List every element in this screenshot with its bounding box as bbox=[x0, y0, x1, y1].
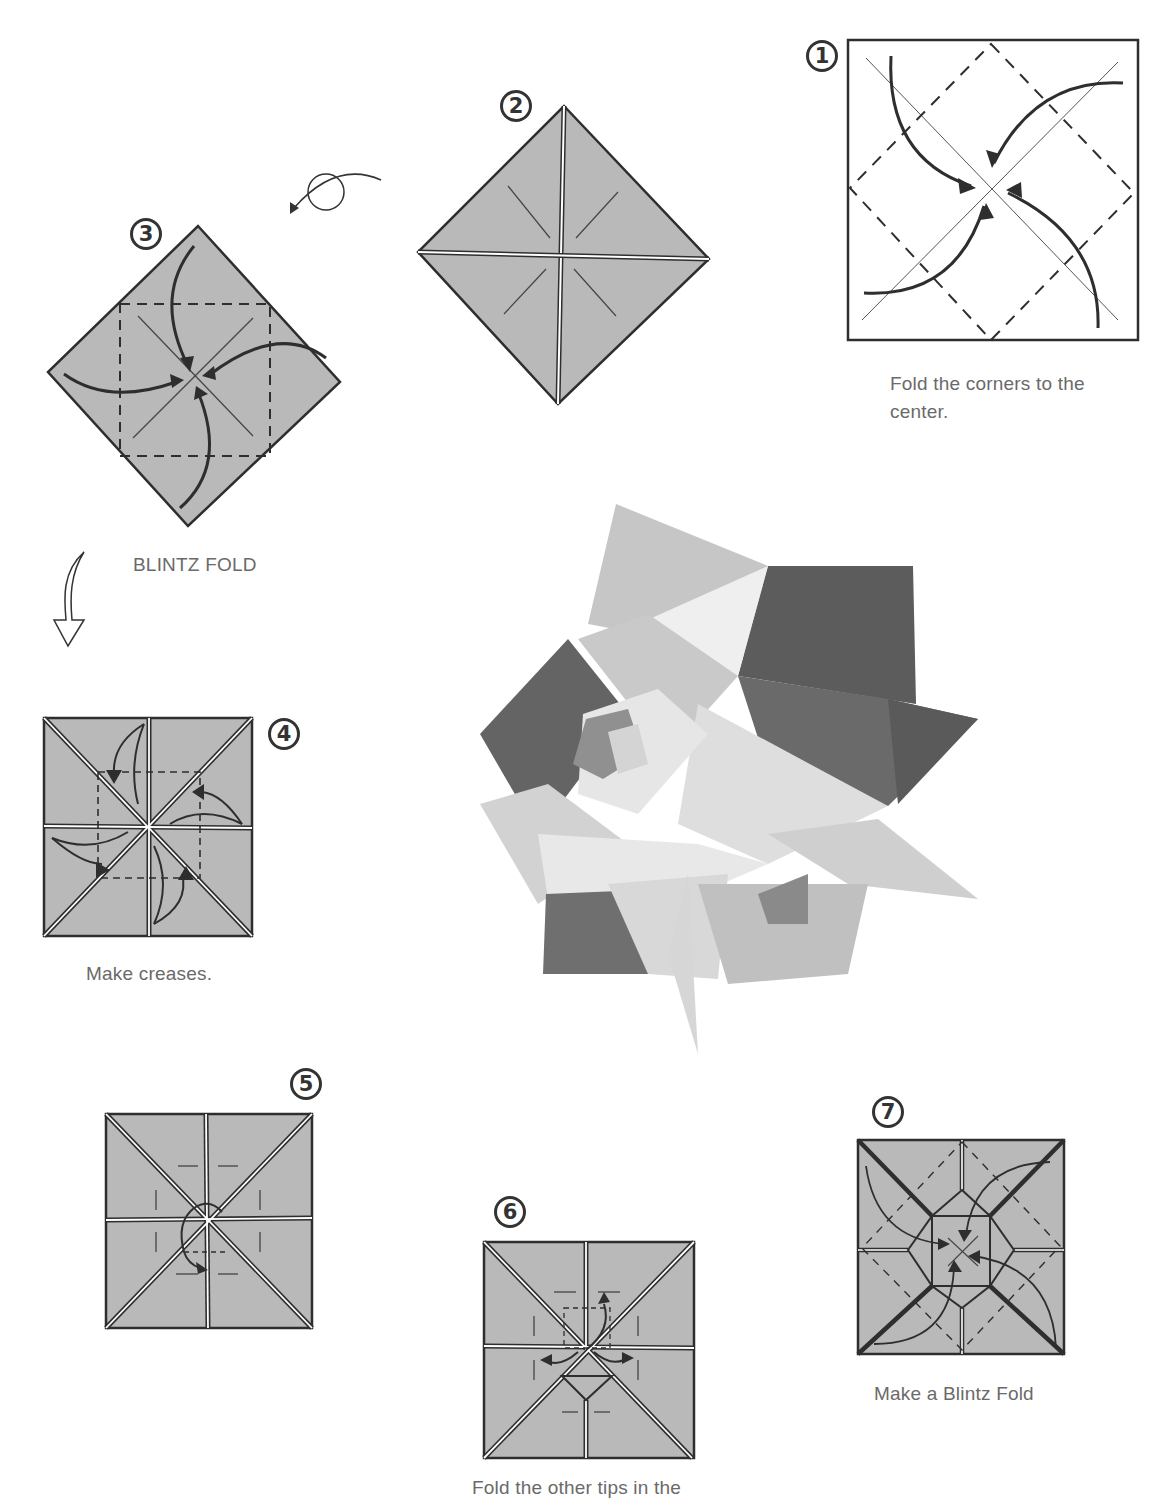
step-6-diagram bbox=[482, 1240, 696, 1462]
step-number-7: 7 bbox=[872, 1096, 904, 1128]
step-number-5-text: 5 bbox=[299, 1072, 314, 1096]
step-number-6: 6 bbox=[494, 1196, 526, 1228]
step-3-caption: BLINTZ FOLD bbox=[133, 551, 257, 579]
step-number-1: 1 bbox=[806, 40, 838, 72]
step-number-4: 4 bbox=[268, 718, 300, 750]
hollow-down-arrow-icon bbox=[42, 548, 92, 650]
step-number-5: 5 bbox=[290, 1068, 322, 1100]
step-3-diagram bbox=[48, 226, 344, 528]
turn-over-arrow-icon bbox=[286, 166, 386, 218]
step-1-diagram bbox=[846, 38, 1142, 344]
step-1-caption-line-1: Fold the corners to the bbox=[890, 370, 1085, 398]
step-1-caption: Fold the corners to the center. bbox=[890, 370, 1085, 426]
step-5-diagram bbox=[104, 1112, 316, 1332]
step-number-6-text: 6 bbox=[503, 1200, 518, 1224]
step-2-diagram bbox=[416, 104, 712, 406]
step-number-7-text: 7 bbox=[881, 1100, 896, 1124]
step-number-4-text: 4 bbox=[277, 722, 292, 746]
step-4-diagram bbox=[42, 714, 254, 940]
step-7-caption: Make a Blintz Fold bbox=[874, 1380, 1034, 1408]
step-number-1-text: 1 bbox=[815, 44, 830, 68]
step-1-caption-line-2: center. bbox=[890, 398, 1085, 426]
step-6-caption: Fold the other tips in the bbox=[472, 1474, 681, 1502]
step-7-diagram bbox=[856, 1138, 1068, 1360]
finished-model-photo bbox=[468, 504, 978, 1056]
step-4-caption: Make creases. bbox=[86, 960, 212, 988]
